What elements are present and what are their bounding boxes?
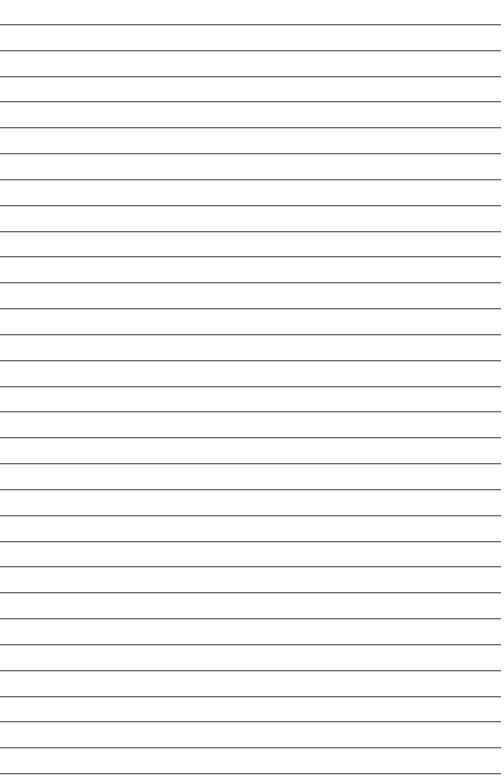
ruled-line	[0, 101, 501, 102]
ruled-line	[0, 256, 501, 257]
ruled-line	[0, 76, 501, 77]
ruled-line	[0, 308, 501, 309]
ruled-line	[0, 515, 501, 516]
ruled-line	[0, 696, 501, 697]
ruled-line	[0, 411, 501, 412]
ruled-line	[0, 386, 501, 387]
ruled-line	[0, 231, 501, 232]
ruled-line	[0, 592, 501, 593]
ruled-line	[0, 179, 501, 180]
ruled-line	[0, 541, 501, 542]
ruled-line	[0, 773, 501, 774]
ruled-line	[0, 566, 501, 567]
ruled-line	[0, 644, 501, 645]
ruled-line	[0, 463, 501, 464]
ruled-line	[0, 489, 501, 490]
ruled-line	[0, 618, 501, 619]
ruled-line	[0, 334, 501, 335]
ruled-line	[0, 205, 501, 206]
ruled-line	[0, 721, 501, 722]
ruled-line	[0, 437, 501, 438]
ruled-line	[0, 282, 501, 283]
ruled-line	[0, 747, 501, 748]
ruled-line	[0, 50, 501, 51]
ruled-line	[0, 24, 501, 25]
ruled-line	[0, 127, 501, 128]
ruled-line	[0, 360, 501, 361]
lined-paper-page	[0, 0, 504, 776]
ruled-line	[0, 670, 501, 671]
ruled-line	[0, 153, 501, 154]
